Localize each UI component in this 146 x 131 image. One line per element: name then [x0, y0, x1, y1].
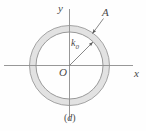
y-axis-label: y: [58, 3, 63, 14]
leader-arrow-area-a: [93, 19, 104, 34]
figure-caption: (d): [64, 113, 76, 123]
x-axis-label: x: [134, 68, 139, 79]
origin-label: O: [59, 67, 67, 78]
radius-label-subscript: 0: [75, 43, 79, 51]
figure-caption-letter: d: [67, 112, 72, 123]
inner-radius-label-k0: k0: [71, 38, 79, 51]
annulus-area-label-a: A: [102, 7, 109, 18]
figure-container: y x O A k0 (d): [0, 0, 146, 131]
